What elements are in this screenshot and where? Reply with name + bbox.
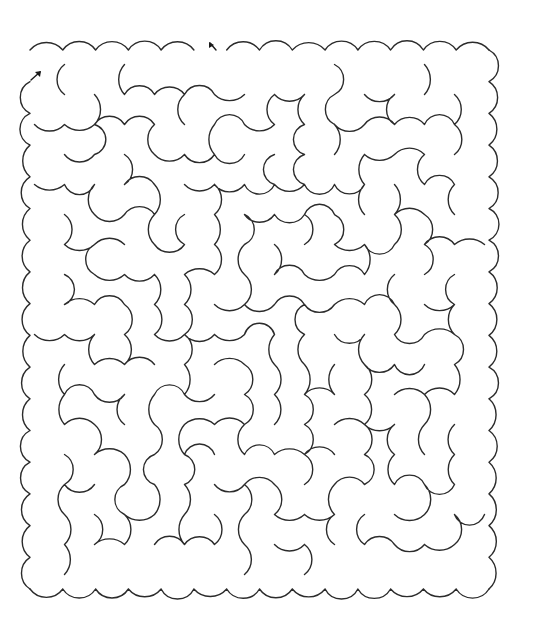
maze-puzzle [0,0,537,637]
maze-wall [30,41,489,50]
maze-inner-walls [35,65,485,575]
maze-wall [35,65,485,575]
entrance-arrow-icon [31,71,41,80]
maze-wall [20,82,30,589]
exit-arrow-icon [209,42,216,50]
maze-wall [30,589,489,599]
maze-canvas [0,0,537,637]
maze-outer-border [20,41,499,599]
maze-wall [489,50,499,589]
